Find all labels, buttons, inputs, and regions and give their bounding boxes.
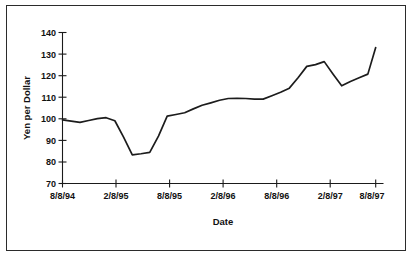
- chart-figure: 140 130 120 110 100 90 80 70: [0, 0, 413, 262]
- y-tick-label: 80: [46, 157, 56, 167]
- x-tick-label: 8/8/96: [264, 191, 289, 201]
- y-tick-label: 140: [41, 28, 56, 38]
- y-axis-title: Yen per Dollar: [21, 76, 32, 140]
- x-axis: [63, 180, 384, 188]
- y-tick-label: 90: [46, 136, 56, 146]
- y-tick-label: 70: [46, 179, 56, 189]
- y-tick-label: 100: [41, 114, 56, 124]
- y-axis: [59, 33, 67, 184]
- y-axis-tick-labels: 140 130 120 110 100 90 80 70: [41, 28, 56, 189]
- x-tick-label: 2/8/97: [318, 191, 343, 201]
- y-tick-label: 110: [41, 93, 56, 103]
- x-axis-tick-labels: 8/8/94 2/8/95 8/8/95 2/8/96 8/8/96 2/8/9…: [50, 191, 385, 201]
- x-tick-label: 8/8/94: [50, 191, 75, 201]
- y-tick-label: 130: [41, 50, 56, 60]
- x-tick-label: 8/8/97: [359, 191, 384, 201]
- x-tick-label: 2/8/95: [103, 191, 128, 201]
- data-series-line: [63, 48, 376, 155]
- x-tick-label: 8/8/95: [157, 191, 182, 201]
- line-chart: 140 130 120 110 100 90 80 70: [0, 0, 413, 262]
- x-tick-label: 2/8/96: [211, 191, 236, 201]
- y-tick-label: 120: [41, 71, 56, 81]
- x-axis-title: Date: [213, 216, 234, 227]
